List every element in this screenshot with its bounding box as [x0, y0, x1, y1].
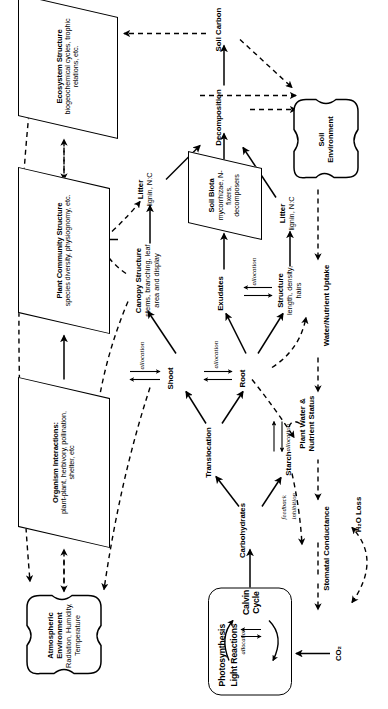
edge-label-starch-allocation: allocation — [284, 423, 291, 451]
leaf-litter-title: Litter — [136, 179, 145, 199]
edge-label-inhibition: inhibition — [290, 493, 297, 519]
node-organism-interactions: Organism Interactions: plant-plant, herb… — [18, 376, 110, 547]
root-litter-title: Litter — [278, 203, 287, 223]
ecosystem-structure-subtitle: biogeochemical cycles, trophic relations… — [64, 14, 80, 118]
label-translocation: Translocation — [204, 419, 213, 485]
diagram-canvas: Atmospheric Environment Radiation, Humid… — [0, 0, 388, 709]
organism-interactions-subtitle: plant-plant, herbivory, pollination, she… — [60, 400, 76, 524]
edge-label-shoot-allocation: allocation — [138, 341, 145, 369]
label-stomatal-conductance: Stomatal Conductance — [322, 495, 331, 601]
edge-label-feedback: feedback — [280, 495, 287, 519]
label-leaf-litter: Litter lignin, N:C — [136, 169, 154, 209]
label-root-structure: Structure length, density, hairs — [276, 263, 303, 317]
soil-carbon-text: Soil Carbon — [214, 7, 223, 51]
canopy-structure-title: Canopy Structure — [134, 247, 143, 312]
translocation-text: Translocation — [204, 427, 213, 478]
node-atmospheric-environment: Atmospheric Environment Radiation, Humid… — [22, 589, 106, 681]
water-nutrient-uptake-text: Water/Nutrient Uptake — [322, 264, 331, 346]
photosynthesis-cycle-arrows — [209, 586, 293, 694]
node-plant-community-structure: Plant Community Structure species divers… — [18, 166, 110, 333]
co2-text: CO₂ — [334, 645, 343, 660]
label-soil-carbon: Soil Carbon — [214, 3, 223, 55]
label-decomposition: Decomposition — [214, 81, 223, 153]
label-root-litter: Litter lignin, N:C — [278, 193, 296, 233]
stomatal-conductance-text: Stomatal Conductance — [322, 506, 331, 590]
node-soil-biota: Soil Biota mycorrhizae, N-fixers, decomp… — [188, 150, 262, 239]
label-shoot: Shoot — [166, 361, 175, 395]
label-h2o-loss: H₂O Loss — [354, 479, 363, 549]
node-photosynthesis: Photosynthesis Light Reactions Calvin Cy… — [208, 587, 292, 695]
soil-biota-subtitle: mycorrhizae, N-fixers, decomposers — [217, 164, 242, 226]
leaf-litter-subtitle: lignin, N:C — [145, 172, 154, 206]
root-litter-subtitle: lignin, N:C — [287, 196, 296, 230]
edge-label-exudates-allocation: allocation — [250, 257, 257, 285]
node-ecosystem-structure: Ecosystem Structure biogeochemical cycle… — [18, 0, 118, 139]
shoot-text: Shoot — [166, 367, 175, 389]
label-canopy-structure: Canopy Structure stems, branching, leaf … — [134, 241, 161, 319]
node-soil-environment: Soil Environment — [290, 93, 362, 185]
starch-text: Starch — [284, 451, 293, 475]
root-structure-subtitle: length, density, hairs — [285, 263, 303, 317]
atmospheric-environment-subtitle: Radiation, Humidity, Temperature — [64, 599, 82, 671]
exudates-text: Exudates — [216, 276, 225, 311]
canopy-structure-subtitle: stems, branching, leaf area and display — [143, 241, 161, 319]
plant-community-structure-subtitle: species diversity, physiognomy, etc. — [64, 194, 72, 306]
carbohydrates-text: Carbohydrates — [238, 502, 247, 557]
label-exudates: Exudates — [216, 269, 225, 317]
plant-water-status-text: Plant Water & Nutrient Status — [298, 389, 316, 457]
label-plant-water-status: Plant Water & Nutrient Status — [298, 389, 316, 457]
root-structure-title: Structure — [276, 273, 285, 308]
label-water-nutrient-uptake: Water/Nutrient Uptake — [322, 257, 331, 353]
label-root: Root — [238, 363, 247, 393]
label-carbohydrates: Carbohydrates — [238, 501, 247, 559]
label-co2: CO₂ — [334, 625, 343, 681]
soil-environment-title: Soil Environment — [317, 109, 335, 169]
decomposition-text: Decomposition — [214, 89, 223, 145]
edge-label-root-allocation: allocation — [212, 340, 219, 368]
atmospheric-environment-title: Atmospheric Environment — [46, 589, 64, 681]
h2o-loss-text: H₂O Loss — [354, 496, 363, 532]
root-text: Root — [238, 369, 247, 387]
